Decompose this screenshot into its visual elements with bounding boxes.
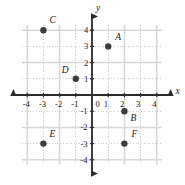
data-point-c [40, 27, 46, 33]
plotted-points [40, 27, 127, 147]
data-point-e [40, 140, 46, 146]
axis-lines [13, 16, 170, 173]
data-point-f [121, 140, 127, 146]
coordinate-plane-figure: -4-3-2-112344321-1-2-3-4 ABCDEF x y 0 [0, 0, 185, 185]
coordinate-plane-svg [0, 0, 185, 185]
data-point-b [121, 108, 127, 114]
data-point-a [105, 43, 111, 49]
data-point-d [73, 76, 79, 82]
